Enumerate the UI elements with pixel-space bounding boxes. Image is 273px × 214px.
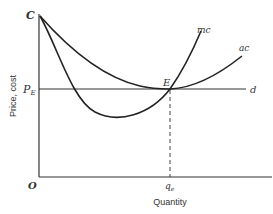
ac-label: ac	[239, 43, 249, 53]
origin-label: O	[28, 180, 37, 191]
ac-curve	[40, 16, 242, 89]
mc-label: mc	[197, 25, 211, 35]
equilibrium-label: E	[162, 77, 171, 88]
mc-curve	[40, 16, 201, 117]
cost-curve-diagram: C PE E mc ac d O qe Quantity Price, cost	[0, 0, 273, 214]
demand-label: d	[250, 84, 256, 95]
qe-label: qe	[165, 181, 175, 192]
y-axis-label: Price, cost	[8, 74, 18, 117]
x-axis-label: Quantity	[153, 197, 187, 207]
y-top-label: C	[26, 9, 35, 22]
price-label: PE	[22, 83, 36, 97]
